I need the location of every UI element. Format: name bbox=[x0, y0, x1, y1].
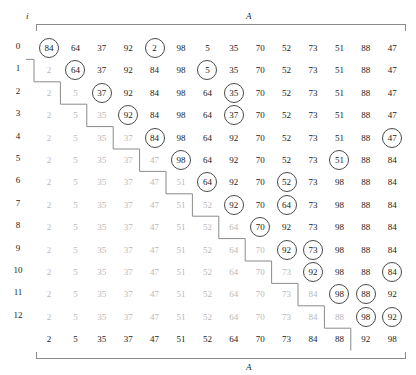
grid-cell: 47 bbox=[142, 175, 168, 189]
grid-cell: 92 bbox=[115, 108, 141, 122]
grid-cell: 2 bbox=[36, 131, 62, 145]
grid-cell: 92 bbox=[115, 63, 141, 77]
grid-cell: 35 bbox=[221, 41, 247, 55]
grid-cell: 84 bbox=[300, 332, 326, 346]
grid-cell: 64 bbox=[194, 108, 220, 122]
grid-cell: 73 bbox=[274, 265, 300, 279]
grid-cell: 70 bbox=[247, 108, 273, 122]
grid-cell: 51 bbox=[326, 41, 352, 55]
grid-cell: 47 bbox=[142, 153, 168, 167]
grid-cell: 98 bbox=[326, 265, 352, 279]
grid-cell: 84 bbox=[379, 175, 405, 189]
grid-cell: 88 bbox=[326, 310, 352, 324]
grid-cell: 64 bbox=[221, 287, 247, 301]
grid-cell: 51 bbox=[326, 153, 352, 167]
grid-cell: 47 bbox=[142, 198, 168, 212]
grid-cell: 51 bbox=[326, 131, 352, 145]
grid-cell: 88 bbox=[353, 175, 379, 189]
grid-cell: 84 bbox=[300, 310, 326, 324]
row-index-label: 2 bbox=[8, 86, 28, 96]
grid-cell: 92 bbox=[115, 41, 141, 55]
grid-cell: 88 bbox=[353, 265, 379, 279]
grid-cell: 52 bbox=[194, 243, 220, 257]
grid-cell: 37 bbox=[115, 198, 141, 212]
grid-cell: 88 bbox=[353, 198, 379, 212]
grid-cell: 47 bbox=[379, 63, 405, 77]
grid-cell: 5 bbox=[194, 63, 220, 77]
grid-cell: 92 bbox=[353, 332, 379, 346]
grid-cell: 35 bbox=[221, 63, 247, 77]
grid-cell: 2 bbox=[36, 265, 62, 279]
grid-cell: 84 bbox=[379, 265, 405, 279]
grid-cell: 51 bbox=[168, 332, 194, 346]
grid-cell: 98 bbox=[326, 198, 352, 212]
grid-cell: 64 bbox=[194, 153, 220, 167]
grid-cell: 64 bbox=[194, 131, 220, 145]
grid-cell: 73 bbox=[274, 287, 300, 301]
grid-cell: 73 bbox=[274, 332, 300, 346]
grid-cell: 2 bbox=[36, 63, 62, 77]
grid-cell: 35 bbox=[89, 220, 115, 234]
row-index-label: 6 bbox=[8, 175, 28, 185]
grid-cell: 51 bbox=[168, 310, 194, 324]
grid-cell: 47 bbox=[142, 287, 168, 301]
row-index-label: 12 bbox=[8, 310, 28, 320]
grid-cell: 92 bbox=[221, 198, 247, 212]
grid-cell: 73 bbox=[300, 41, 326, 55]
grid-cell: 98 bbox=[168, 108, 194, 122]
grid-cell: 88 bbox=[353, 41, 379, 55]
grid-cell: 35 bbox=[89, 332, 115, 346]
grid-cell: 5 bbox=[62, 198, 88, 212]
grid-cell: 35 bbox=[89, 153, 115, 167]
grid-cell: 70 bbox=[247, 220, 273, 234]
grid-cell: 98 bbox=[168, 41, 194, 55]
grid-cell: 73 bbox=[300, 108, 326, 122]
row-index-label: 3 bbox=[8, 108, 28, 118]
grid-cell: 98 bbox=[379, 332, 405, 346]
grid-cell: 73 bbox=[300, 153, 326, 167]
grid-cell: 52 bbox=[274, 153, 300, 167]
grid-cell: 92 bbox=[274, 243, 300, 257]
grid-cell: 47 bbox=[142, 332, 168, 346]
grid-cell: 52 bbox=[194, 220, 220, 234]
grid-cell: 98 bbox=[326, 287, 352, 301]
grid-cell: 98 bbox=[168, 86, 194, 100]
grid-cell: 51 bbox=[326, 86, 352, 100]
grid-cell: 51 bbox=[168, 220, 194, 234]
grid-cell: 84 bbox=[36, 41, 62, 55]
grid-cell: 5 bbox=[62, 265, 88, 279]
grid-cell: 84 bbox=[379, 243, 405, 257]
grid-cell: 88 bbox=[326, 332, 352, 346]
row-index-label: 1 bbox=[8, 63, 28, 73]
grid-cell: 84 bbox=[142, 108, 168, 122]
grid-cell: 37 bbox=[115, 287, 141, 301]
grid-cell: 64 bbox=[194, 86, 220, 100]
figure-canvas: i A A 0846437922985357052735188471264379… bbox=[0, 0, 416, 375]
grid-cell: 5 bbox=[62, 287, 88, 301]
grid-cell: 37 bbox=[89, 86, 115, 100]
grid-cell: 52 bbox=[274, 108, 300, 122]
grid-cell: 64 bbox=[62, 63, 88, 77]
grid-cell: 73 bbox=[300, 220, 326, 234]
grid-cell: 88 bbox=[353, 243, 379, 257]
grid-cell: 70 bbox=[247, 131, 273, 145]
grid-cell: 37 bbox=[115, 175, 141, 189]
grid-cell: 2 bbox=[36, 153, 62, 167]
grid-cell: 37 bbox=[115, 310, 141, 324]
grid-cell: 88 bbox=[353, 153, 379, 167]
row-index-label: 0 bbox=[8, 41, 28, 51]
grid-cell: 84 bbox=[379, 153, 405, 167]
grid-cell: 52 bbox=[274, 63, 300, 77]
grid-cell: 2 bbox=[36, 287, 62, 301]
grid-cell: 37 bbox=[115, 265, 141, 279]
grid-cell: 70 bbox=[247, 198, 273, 212]
grid-cell: 5 bbox=[62, 86, 88, 100]
grid-cell: 64 bbox=[274, 198, 300, 212]
grid-cell: 64 bbox=[221, 310, 247, 324]
grid-cell: 70 bbox=[247, 63, 273, 77]
grid-cell: 5 bbox=[62, 153, 88, 167]
grid-cell: 88 bbox=[353, 63, 379, 77]
row-index-label: 4 bbox=[8, 131, 28, 141]
grid-cell: 88 bbox=[353, 108, 379, 122]
bottom-axis-label: A bbox=[246, 362, 252, 372]
